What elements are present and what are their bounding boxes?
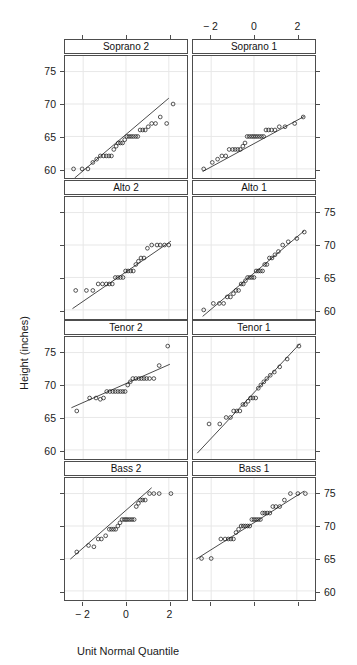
y-tick-label: 70 bbox=[324, 240, 336, 251]
y-tickmark bbox=[60, 493, 64, 494]
panel-tenor-2 bbox=[64, 336, 188, 460]
y-tick-label: 75 bbox=[324, 207, 336, 218]
panel-strip-label-soprano-1: Soprano 1 bbox=[231, 42, 277, 52]
panel-strip-label-tenor-2: Tenor 2 bbox=[109, 323, 142, 333]
y-tick-label: 60 bbox=[324, 306, 336, 317]
y-tickmark bbox=[316, 385, 320, 386]
panel-bass-1 bbox=[192, 477, 316, 601]
y-tickmark bbox=[316, 212, 320, 213]
y-tick-label: 70 bbox=[324, 521, 336, 532]
x-tickmark bbox=[170, 35, 171, 39]
panel-soprano-2 bbox=[64, 55, 188, 179]
x-tickmark bbox=[126, 35, 127, 39]
y-tickmark bbox=[60, 352, 64, 353]
qq-plot-figure: Height (inches) Unit Normal Quantile Sop… bbox=[0, 0, 357, 665]
panel-alto-1 bbox=[192, 196, 316, 320]
y-tick-label: 60 bbox=[44, 165, 56, 176]
y-tick-label: 65 bbox=[324, 273, 336, 284]
x-tickmark bbox=[210, 602, 211, 606]
panel-strip-alto-2: Alto 2 bbox=[64, 180, 188, 195]
y-tick-label: 60 bbox=[324, 587, 336, 598]
y-tickmark bbox=[316, 71, 320, 72]
panel-strip-bass-2: Bass 2 bbox=[64, 461, 188, 476]
x-tickmark bbox=[254, 35, 255, 39]
panel-alto-2 bbox=[64, 196, 188, 320]
x-tick-label: 0 bbox=[123, 609, 129, 620]
y-tick-label: 60 bbox=[44, 446, 56, 457]
y-tickmark bbox=[316, 170, 320, 171]
panel-bass-2 bbox=[64, 477, 188, 601]
y-tickmark bbox=[316, 526, 320, 527]
y-tickmark bbox=[60, 526, 64, 527]
y-tickmark bbox=[316, 418, 320, 419]
x-tickmark bbox=[126, 602, 127, 606]
x-tickmark bbox=[82, 35, 83, 39]
y-tickmark bbox=[60, 559, 64, 560]
panel-strip-label-soprano-2: Soprano 2 bbox=[103, 42, 149, 52]
y-tickmark bbox=[316, 311, 320, 312]
y-tickmark bbox=[316, 451, 320, 452]
panel-soprano-1 bbox=[192, 55, 316, 179]
x-tickmark bbox=[170, 602, 171, 606]
y-tickmark bbox=[60, 71, 64, 72]
y-tick-label: 75 bbox=[44, 66, 56, 77]
x-tickmark bbox=[210, 35, 211, 39]
panel-tenor-1 bbox=[192, 336, 316, 460]
y-tickmark bbox=[60, 245, 64, 246]
y-tickmark bbox=[60, 104, 64, 105]
x-tickmark bbox=[82, 602, 83, 606]
x-tickmark bbox=[254, 602, 255, 606]
y-tickmark bbox=[316, 137, 320, 138]
panel-strip-label-alto-2: Alto 2 bbox=[113, 183, 139, 193]
x-tick-label: 2 bbox=[295, 21, 301, 32]
y-tick-label: 75 bbox=[324, 488, 336, 499]
y-tickmark bbox=[316, 352, 320, 353]
y-tickmark bbox=[60, 212, 64, 213]
panel-strip-label-tenor-1: Tenor 1 bbox=[237, 323, 270, 333]
panel-strip-label-bass-1: Bass 1 bbox=[239, 464, 270, 474]
y-tick-label: 65 bbox=[44, 413, 56, 424]
x-tickmark bbox=[298, 35, 299, 39]
y-tickmark bbox=[60, 385, 64, 386]
y-tickmark bbox=[316, 245, 320, 246]
panel-strip-tenor-1: Tenor 1 bbox=[192, 320, 316, 335]
x-tick-label: − 2 bbox=[75, 609, 90, 620]
y-tickmark bbox=[316, 104, 320, 105]
panel-layer: Soprano 260657075Soprano 1− 202Alto 2Alt… bbox=[0, 0, 357, 665]
panel-strip-bass-1: Bass 1 bbox=[192, 461, 316, 476]
x-tick-label: 2 bbox=[167, 609, 173, 620]
x-tickmark bbox=[298, 602, 299, 606]
y-tick-label: 65 bbox=[324, 554, 336, 565]
panel-strip-soprano-2: Soprano 2 bbox=[64, 39, 188, 54]
x-tick-label: 0 bbox=[251, 21, 257, 32]
y-tickmark bbox=[60, 592, 64, 593]
panel-strip-alto-1: Alto 1 bbox=[192, 180, 316, 195]
x-tick-label: − 2 bbox=[203, 21, 218, 32]
y-tickmark bbox=[60, 137, 64, 138]
y-tick-label: 65 bbox=[44, 132, 56, 143]
y-tickmark bbox=[316, 493, 320, 494]
y-tickmark bbox=[316, 278, 320, 279]
y-tickmark bbox=[316, 559, 320, 560]
y-tickmark bbox=[60, 418, 64, 419]
y-tick-label: 70 bbox=[44, 380, 56, 391]
y-tickmark bbox=[60, 278, 64, 279]
panel-strip-label-alto-1: Alto 1 bbox=[241, 183, 267, 193]
y-tick-label: 70 bbox=[44, 99, 56, 110]
y-tickmark bbox=[60, 451, 64, 452]
panel-strip-tenor-2: Tenor 2 bbox=[64, 320, 188, 335]
panel-strip-soprano-1: Soprano 1 bbox=[192, 39, 316, 54]
panel-strip-label-bass-2: Bass 2 bbox=[111, 464, 142, 474]
y-tickmark bbox=[60, 170, 64, 171]
y-tickmark bbox=[60, 311, 64, 312]
y-tick-label: 75 bbox=[44, 347, 56, 358]
y-tickmark bbox=[316, 592, 320, 593]
